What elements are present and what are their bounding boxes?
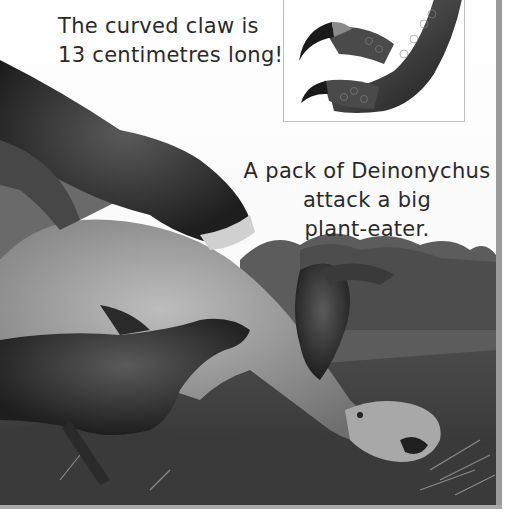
page-edge-right [496, 0, 502, 508]
pack-caption-line-2: attack a big [236, 186, 498, 215]
claw-caption-line-1: The curved claw is [58, 12, 283, 41]
book-page: The curved claw is 13 centimetres long! … [0, 0, 511, 515]
page-edge-bottom [0, 505, 502, 509]
claw-caption-line-2: 13 centimetres long! [58, 41, 283, 70]
pack-caption-line-1: A pack of Deinonychus [236, 157, 498, 186]
pack-caption: A pack of Deinonychus attack a big plant… [236, 157, 498, 244]
pack-caption-line-3: plant-eater. [236, 215, 498, 244]
claw-caption: The curved claw is 13 centimetres long! [58, 12, 283, 70]
claw-inset-image [283, 0, 465, 122]
